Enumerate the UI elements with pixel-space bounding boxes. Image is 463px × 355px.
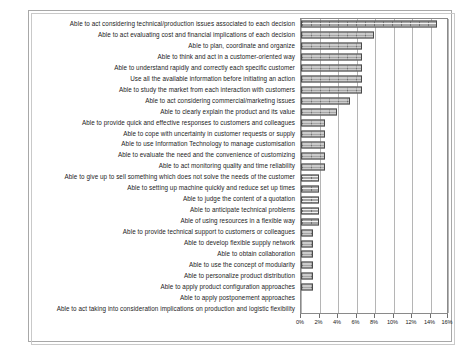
bar-row [301,271,447,282]
bar [301,207,319,214]
category-axis-labels: Able to act considering technical/produc… [28,18,298,314]
bar-row [301,96,447,107]
bar-row [301,183,447,194]
category-label-row: Able to plan, coordinate and organize [28,40,298,51]
bar-row [301,194,447,205]
category-label-row: Able to give up to sell something which … [28,171,298,182]
category-label-row: Able to clearly explain the product and … [28,106,298,117]
axis-tick-label: 2% [314,319,322,326]
category-label: Able to think and act in a customer-orie… [158,53,295,60]
bar [301,174,319,181]
bar [301,240,313,247]
category-label: Able to apply postponement approaches [180,294,295,301]
bar-row [301,249,447,260]
bar [301,218,319,225]
gridline [448,19,449,313]
plot-area [300,18,448,314]
category-label-row: Able to act monitoring quality and time … [28,160,298,171]
category-label: Able to give up to sell something which … [65,173,295,180]
category-label: Able to study the market from each inter… [119,86,295,93]
bar [301,98,350,105]
category-label: Able of using resources in a flexible wa… [180,217,295,224]
bar [301,196,319,203]
category-label: Use all the available information before… [130,75,295,82]
bar-row [301,118,447,129]
bar [301,120,325,127]
category-label: Able to setting up machine quickly and r… [127,184,295,191]
bar-row [301,41,447,52]
category-label-row: Able to provide technical support to cus… [28,226,298,237]
bar-row [301,150,447,161]
category-label: Able to evaluate the need and the conven… [118,151,295,158]
bar [301,141,325,148]
category-label-row: Able to develop flexible supply network [28,237,298,248]
category-label: Able to apply product configuration appr… [160,283,295,290]
bar-row [301,205,447,216]
bar-row [301,238,447,249]
bar-row [301,139,447,150]
chart-area: Able to act considering technical/produc… [28,10,452,342]
bar-row [301,74,447,85]
bar [301,32,374,39]
bar-row [301,172,447,183]
axis-tick-label: 14% [424,319,435,326]
axis-tick-mark [356,314,357,318]
category-label: Able to provide technical support to cus… [123,228,295,235]
bar [301,163,325,170]
bar [301,262,313,269]
category-label: Able to anticipate technical problems [190,206,295,213]
bar-row [301,107,447,118]
category-label: Able to act considering technical/produc… [70,20,295,27]
axis-tick-mark [337,314,338,318]
category-label-row: Able to use Information Technology to ma… [28,138,298,149]
category-label: Able to cope with uncertainty in custome… [123,130,295,137]
axis-tick-mark [300,314,301,318]
category-label: Able to act monitoring quality and time … [159,162,295,169]
category-label-row: Able to obtain collaboration [28,248,298,259]
value-axis: 0%2%4%6%8%10%12%14%16% [300,314,448,336]
axis-tick-mark [374,314,375,318]
category-label: Able to understand rapidly and correctly… [114,64,295,71]
bar [301,109,337,116]
bar-row [301,260,447,271]
chart-figure: Able to act considering technical/produc… [0,0,463,355]
bar [301,87,362,94]
category-label-row: Able to judge the content of a quotation [28,193,298,204]
bar [301,152,325,159]
bar [301,131,325,138]
bar [301,43,362,50]
category-label: Able to personalize product distribution [184,272,295,279]
bar-series [301,19,447,313]
category-label: Able to clearly explain the product and … [160,108,295,115]
bar-row [301,30,447,41]
axis-tick-label: 16% [441,319,452,326]
bar [301,273,313,280]
category-label: Able to obtain collaboration [217,250,295,257]
bar-row [301,52,447,63]
category-label-row: Able to apply product configuration appr… [28,281,298,292]
category-label: Able to develop flexible supply network [184,239,295,246]
category-label-row: Able to act considering commercial/marke… [28,95,298,106]
bar-row [301,216,447,227]
category-label-row: Able to study the market from each inter… [28,84,298,95]
category-label: Able to act taking into consideration im… [57,305,295,312]
axis-tick-label: 4% [333,319,341,326]
category-label: Able to act evaluating cost and financia… [98,31,295,38]
bar-row [301,161,447,172]
axis-tick-label: 10% [387,319,398,326]
axis-tick-label: 0% [296,319,304,326]
bar [301,54,362,61]
category-label: Able to provide quick and effective resp… [82,119,295,126]
category-label-row: Able to personalize product distribution [28,270,298,281]
axis-tick-label: 6% [351,319,359,326]
category-label-row: Able to act considering technical/produc… [28,18,298,29]
bar-row [301,19,447,30]
category-label: Able to judge the content of a quotation [183,195,295,202]
bar-row [301,293,447,304]
bar-row [301,282,447,293]
bar-row [301,63,447,74]
axis-tick-mark [411,314,412,318]
category-label-row: Able to think and act in a customer-orie… [28,51,298,62]
category-label-row: Able to act taking into consideration im… [28,303,298,314]
category-label-row: Able to provide quick and effective resp… [28,117,298,128]
